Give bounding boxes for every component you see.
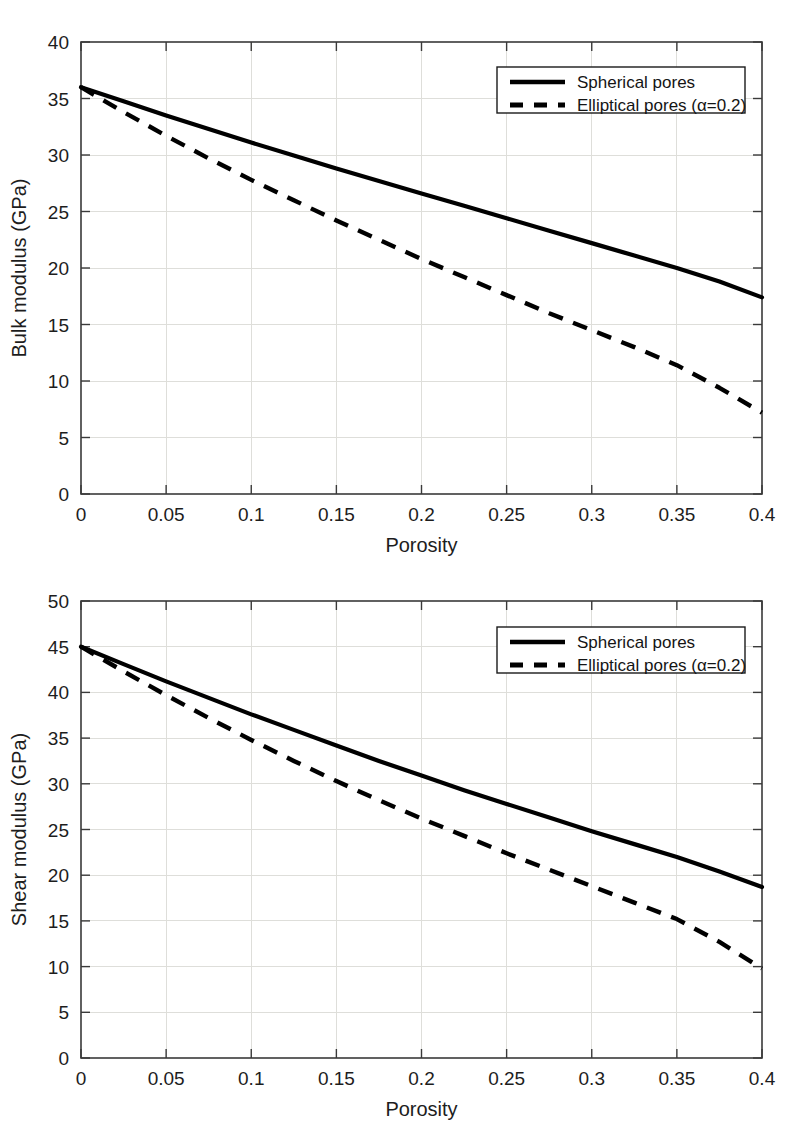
y-tick-label: 15 xyxy=(48,911,69,932)
y-tick-label: 0 xyxy=(58,484,69,505)
bulk-modulus-chart: 051015202530354000.050.10.150.20.250.30.… xyxy=(0,0,802,572)
y-axis-title: Bulk modulus (GPa) xyxy=(8,179,30,358)
x-tick-label: 0.35 xyxy=(658,1068,695,1089)
y-tick-label: 0 xyxy=(58,1048,69,1069)
legend-label-2: Elliptical pores (α=0.2) xyxy=(577,96,746,115)
x-axis-title: Porosity xyxy=(385,1098,457,1120)
y-tick-label: 35 xyxy=(48,89,69,110)
y-tick-label: 20 xyxy=(48,865,69,886)
y-tick-label: 40 xyxy=(48,32,69,53)
legend-label-1: Spherical pores xyxy=(577,73,695,92)
y-tick-label: 35 xyxy=(48,728,69,749)
x-tick-label: 0.4 xyxy=(749,1068,776,1089)
legend: Spherical poresElliptical pores (α=0.2) xyxy=(497,627,746,675)
y-tick-label: 5 xyxy=(58,428,69,449)
x-tick-label: 0.3 xyxy=(579,504,605,525)
legend: Spherical poresElliptical pores (α=0.2) xyxy=(497,67,746,115)
x-axis-title: Porosity xyxy=(385,534,457,556)
y-tick-label: 30 xyxy=(48,774,69,795)
x-tick-label: 0.15 xyxy=(318,1068,355,1089)
shear-modulus-chart: 0510152025303540455000.050.10.150.20.250… xyxy=(0,570,802,1144)
x-tick-label: 0.2 xyxy=(408,504,434,525)
y-tick-label: 15 xyxy=(48,315,69,336)
x-tick-label: 0.05 xyxy=(148,1068,185,1089)
x-tick-label: 0.15 xyxy=(318,504,355,525)
x-tick-label: 0.3 xyxy=(579,1068,605,1089)
y-axis-title: Shear modulus (GPa) xyxy=(8,733,30,926)
x-tick-label: 0.1 xyxy=(238,504,264,525)
y-tick-label: 40 xyxy=(48,682,69,703)
x-tick-label: 0.2 xyxy=(408,1068,434,1089)
bulk-modulus-figure: 051015202530354000.050.10.150.20.250.30.… xyxy=(0,0,802,572)
shear-modulus-figure: 0510152025303540455000.050.10.150.20.250… xyxy=(0,570,802,1144)
y-tick-label: 10 xyxy=(48,957,69,978)
legend-label-2: Elliptical pores (α=0.2) xyxy=(577,656,746,675)
y-tick-label: 10 xyxy=(48,371,69,392)
x-tick-label: 0 xyxy=(76,1068,87,1089)
y-tick-label: 25 xyxy=(48,202,69,223)
y-tick-label: 30 xyxy=(48,145,69,166)
y-tick-label: 45 xyxy=(48,637,69,658)
x-tick-label: 0.4 xyxy=(749,504,776,525)
x-tick-label: 0.1 xyxy=(238,1068,264,1089)
x-tick-label: 0.25 xyxy=(488,1068,525,1089)
x-tick-label: 0.35 xyxy=(658,504,695,525)
x-tick-label: 0.25 xyxy=(488,504,525,525)
y-tick-label: 50 xyxy=(48,591,69,612)
x-tick-label: 0.05 xyxy=(148,504,185,525)
legend-label-1: Spherical pores xyxy=(577,633,695,652)
y-tick-label: 5 xyxy=(58,1002,69,1023)
y-tick-label: 20 xyxy=(48,258,69,279)
figure-page: 051015202530354000.050.10.150.20.250.30.… xyxy=(0,0,802,1144)
y-tick-label: 25 xyxy=(48,820,69,841)
x-tick-label: 0 xyxy=(76,504,87,525)
